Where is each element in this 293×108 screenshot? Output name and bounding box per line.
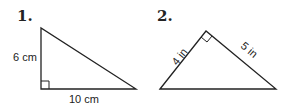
problem-2: 2. 4 in 5 in bbox=[157, 7, 276, 89]
problem-1: 1. 6 cm 10 cm bbox=[13, 7, 136, 105]
right-angle-marker-1 bbox=[41, 81, 49, 89]
triangle-1 bbox=[41, 28, 136, 89]
vertical-leg-label: 6 cm bbox=[13, 51, 37, 63]
horizontal-leg-label: 10 cm bbox=[69, 93, 99, 105]
left-leg-label: 4 in bbox=[169, 46, 189, 67]
problem-1-number: 1. bbox=[17, 7, 33, 25]
triangles-diagram: 1. 6 cm 10 cm 2. 4 in 5 in bbox=[0, 0, 293, 108]
problem-2-number: 2. bbox=[157, 7, 173, 25]
right-angle-marker-2 bbox=[201, 36, 212, 42]
right-leg-label: 5 in bbox=[239, 39, 260, 60]
